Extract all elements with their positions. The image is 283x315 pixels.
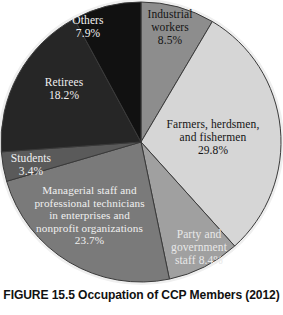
slice-label-others: Others 7.9% xyxy=(58,14,118,40)
slice-label-industrial-workers: Industrial workers 8.5% xyxy=(132,8,208,47)
figure-caption: FIGURE 15.5 Occupation of CCP Members (2… xyxy=(0,288,283,302)
slice-label-managerial-staff: Managerial staff and professional techni… xyxy=(22,184,157,247)
pie-chart: Others 7.9% Industrial workers 8.5% Farm… xyxy=(0,0,283,285)
slice-label-farmers: Farmers, herdsmen, and fishermen 29.8% xyxy=(148,118,278,157)
figure-container: Others 7.9% Industrial workers 8.5% Farm… xyxy=(0,0,283,315)
slice-label-students: Students 3.4% xyxy=(0,152,62,178)
slice-label-party-government-staff: Party and government staff 8.4% xyxy=(156,228,242,267)
slice-label-retirees: Retirees 18.2% xyxy=(26,76,102,102)
